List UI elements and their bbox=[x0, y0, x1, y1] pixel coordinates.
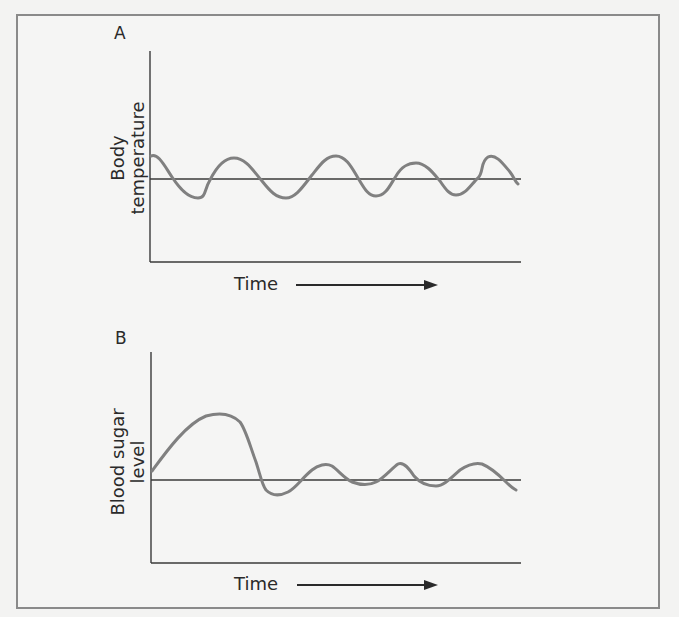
panel-b-ylabel: Blood sugar level bbox=[107, 408, 148, 516]
panel-b: B Blood sugar level Time bbox=[107, 328, 521, 594]
panel-b-letter: B bbox=[115, 328, 127, 348]
panel-b-ylabel-line2: level bbox=[127, 441, 148, 484]
panel-a-letter: A bbox=[114, 23, 126, 43]
panel-b-time-arrow-icon bbox=[297, 580, 438, 590]
panel-a-ylabel-line2: temperature bbox=[127, 101, 148, 214]
panel-b-xlabel: Time bbox=[233, 573, 278, 594]
panel-a: A Body temperature Time bbox=[107, 23, 521, 294]
panel-b-ylabel-line1: Blood sugar bbox=[107, 408, 128, 516]
homeostasis-diagram: A Body temperature Time B Blood sugar le… bbox=[0, 0, 679, 617]
panel-a-ylabel-line1: Body bbox=[107, 135, 128, 181]
panel-a-time-arrow-icon bbox=[296, 280, 438, 290]
panel-a-temperature-curve bbox=[151, 156, 518, 198]
panel-a-ylabel: Body temperature bbox=[107, 101, 148, 214]
panel-b-blood-sugar-curve bbox=[152, 414, 516, 495]
panel-a-xlabel: Time bbox=[233, 273, 278, 294]
